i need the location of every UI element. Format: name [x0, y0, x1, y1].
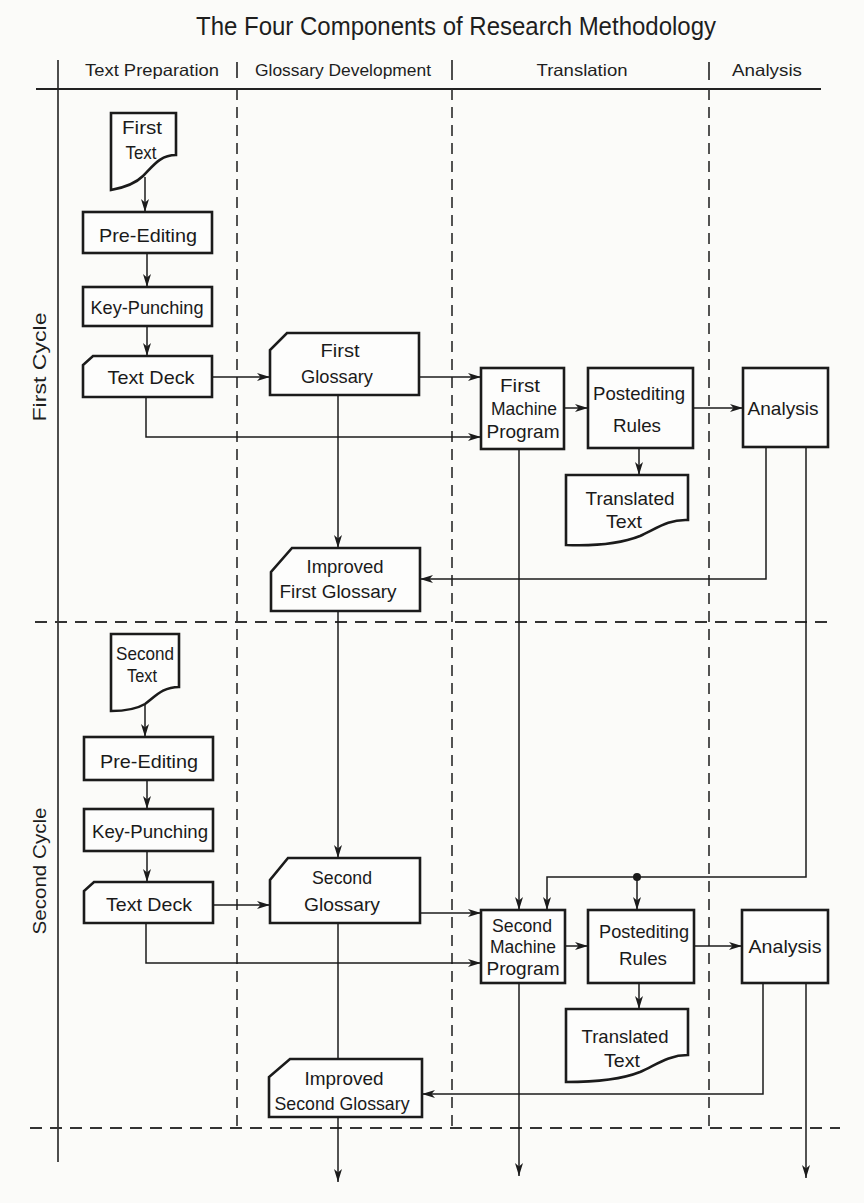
node-analysis-2: Analysis: [742, 910, 828, 983]
node-label-line: Second: [492, 915, 552, 936]
node-label-line: Key-Punching: [91, 297, 204, 318]
diagram-title: The Four Components of Research Methodol…: [196, 11, 716, 41]
node-label-line: Analysis: [748, 398, 819, 419]
node-analysis-1: Analysis: [743, 368, 828, 447]
node-key-punching-2: Key-Punching: [84, 809, 213, 851]
node-label-line: Rules: [619, 948, 667, 969]
node-second-glossary: Second Glossary: [270, 858, 420, 923]
node-label-line: Program: [487, 421, 560, 442]
node-label-line: Text: [127, 665, 158, 686]
node-label-line: Glossary: [301, 366, 373, 387]
node-label-line: Text Deck: [108, 367, 196, 388]
node-pre-editing-2: Pre-Editing: [84, 737, 213, 780]
node-label-line: Translated: [586, 488, 675, 509]
node-label-line: Translated: [582, 1026, 669, 1047]
node-label-line: Second: [116, 643, 174, 664]
node-label-line: Second: [312, 867, 372, 888]
node-label-line: First: [500, 375, 541, 396]
node-label-line: Pre-Editing: [99, 225, 197, 246]
node-label-line: Machine: [490, 936, 556, 957]
node-label-line: Glossary: [304, 894, 380, 915]
node-text-deck-2: Text Deck: [84, 882, 213, 923]
node-label-line: Pre-Editing: [100, 751, 198, 772]
node-second-machine-program: Second Machine Program: [481, 910, 565, 983]
node-pre-editing-1: Pre-Editing: [83, 212, 212, 253]
node-label-line: Improved: [305, 1068, 384, 1089]
node-label-line: First Glossary: [280, 581, 397, 602]
node-label-line: Rules: [613, 415, 661, 436]
lane-header-analysis: Analysis: [732, 61, 802, 79]
lane-header-text-preparation: Text Preparation: [85, 61, 219, 79]
junction-dot: [633, 873, 641, 881]
lane-header-translation: Translation: [537, 61, 628, 79]
node-key-punching-1: Key-Punching: [83, 287, 212, 326]
node-postediting-rules-1: Postediting Rules: [588, 368, 693, 448]
node-label-line: Text: [606, 511, 643, 532]
node-label-line: Postediting: [599, 921, 689, 942]
node-text-deck-1: Text Deck: [83, 356, 212, 397]
node-label-line: Key-Punching: [92, 821, 208, 842]
node-improved-second-glossary: Improved Second Glossary: [269, 1059, 422, 1117]
node-label-line: Machine: [491, 398, 557, 419]
cycle-label-first: First Cycle: [29, 313, 50, 422]
node-label-line: First: [122, 117, 163, 138]
node-label-line: Text: [604, 1050, 641, 1071]
node-label-line: Text: [126, 142, 158, 163]
lane-header-glossary-development: Glossary Development: [255, 61, 431, 79]
node-first-machine-program: First Machine Program: [481, 368, 564, 449]
process-box: [588, 368, 693, 448]
cycle-label-second: Second Cycle: [29, 808, 50, 935]
node-label-line: First: [321, 340, 361, 361]
node-label-line: Improved: [307, 556, 384, 577]
methodology-diagram: The Four Components of Research Methodol…: [0, 0, 864, 1203]
node-improved-first-glossary: Improved First Glossary: [271, 548, 420, 611]
node-label-line: Second Glossary: [275, 1093, 410, 1114]
node-label-line: Program: [487, 958, 560, 979]
node-label-line: Text Deck: [106, 894, 193, 915]
node-label-line: Postediting: [593, 383, 685, 404]
node-first-glossary: First Glossary: [270, 333, 419, 395]
node-label-line: Analysis: [749, 936, 822, 957]
node-postediting-rules-2: Postediting Rules: [588, 910, 694, 983]
